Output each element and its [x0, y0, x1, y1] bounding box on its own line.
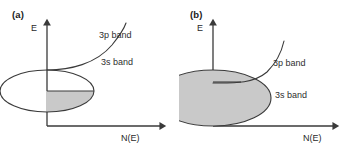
- 3s-band-label-a: 3s band: [101, 57, 133, 67]
- panel-b-plot: [179, 0, 357, 155]
- band-diagram-figure: (a) E N(E) 3p band 3s band: [0, 0, 357, 155]
- panel-b-tag: (b): [190, 9, 202, 20]
- 3p-band-label-b: 3p band: [273, 58, 306, 68]
- y-axis-label-b: E: [197, 23, 203, 33]
- 3s-band-label-b: 3s band: [275, 90, 307, 100]
- panel-a-plot: [0, 0, 178, 155]
- y-axis-label-a: E: [31, 23, 37, 33]
- panel-a: (a) E N(E) 3p band 3s band: [0, 0, 178, 155]
- 3p-band-label-a: 3p band: [99, 30, 132, 40]
- panel-a-tag: (a): [12, 9, 24, 20]
- x-axis-label-a: N(E): [121, 133, 140, 143]
- x-axis-label-b: N(E): [303, 133, 322, 143]
- panel-b: (b) E N(E) 3p band 3s band: [179, 0, 357, 155]
